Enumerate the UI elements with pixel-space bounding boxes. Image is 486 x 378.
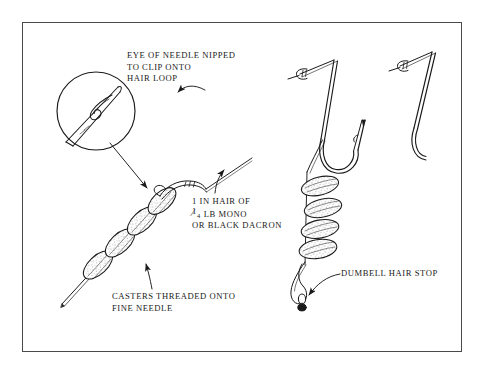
hair-caption-line-3: OR BLACK DACRON bbox=[192, 220, 282, 232]
dumbell-hair-stop bbox=[298, 294, 306, 311]
hair-line-left bbox=[206, 158, 252, 189]
eye-caption-arrow bbox=[178, 86, 205, 92]
caster-right-2 bbox=[303, 195, 344, 221]
needle-eye-inset-circle bbox=[57, 72, 135, 150]
hair-caption-line-1: 1 IN HAIR OF bbox=[192, 196, 282, 208]
caster-right-1 bbox=[299, 173, 340, 200]
centre-hook-assembly bbox=[307, 60, 365, 173]
fraction-slash: ⁄ bbox=[192, 207, 194, 219]
right-caster-stack bbox=[291, 172, 344, 311]
eye-caption-line-3: HAIR LOOP bbox=[127, 73, 236, 85]
eye-caption-line-1: EYE OF NEEDLE NIPPED bbox=[127, 50, 236, 62]
illustration-plate: EYE OF NEEDLE NIPPED TO CLIP ONTO HAIR L… bbox=[0, 0, 486, 378]
casters-threaded-caption: CASTERS THREADED ONTO FINE NEEDLE bbox=[112, 291, 235, 314]
fishing-rig-illustration bbox=[0, 0, 486, 378]
fraction-denominator: 4 bbox=[197, 210, 201, 222]
inset-leader-line bbox=[110, 143, 147, 188]
casters-caption-arrow bbox=[146, 264, 152, 289]
casters-caption-line-2: FINE NEEDLE bbox=[112, 303, 235, 315]
caster-right-4 bbox=[298, 237, 338, 262]
eye-caption-line-2: TO CLIP ONTO bbox=[127, 62, 236, 74]
dumbell-hair-stop-caption: DUMBELL HAIR STOP bbox=[341, 268, 438, 280]
quarter-fraction: 1⁄4 bbox=[192, 208, 201, 217]
hair-caption-line-2: 1⁄4 LB MONO bbox=[192, 208, 282, 221]
hair-material-caption: 1 IN HAIR OF 1⁄4 LB MONO OR BLACK DACRON bbox=[192, 196, 282, 232]
dumbell-caption-line-1: DUMBELL HAIR STOP bbox=[341, 268, 438, 280]
hair-caption-line-2-text: LB MONO bbox=[204, 209, 247, 219]
right-hook-assembly bbox=[412, 52, 436, 160]
dumbell-caption-arrow bbox=[309, 274, 340, 295]
eye-of-needle-caption: EYE OF NEEDLE NIPPED TO CLIP ONTO HAIR L… bbox=[127, 50, 236, 85]
left-needle-with-casters bbox=[61, 158, 252, 308]
casters-caption-line-1: CASTERS THREADED ONTO bbox=[112, 291, 235, 303]
line-knot-centre bbox=[288, 60, 338, 79]
